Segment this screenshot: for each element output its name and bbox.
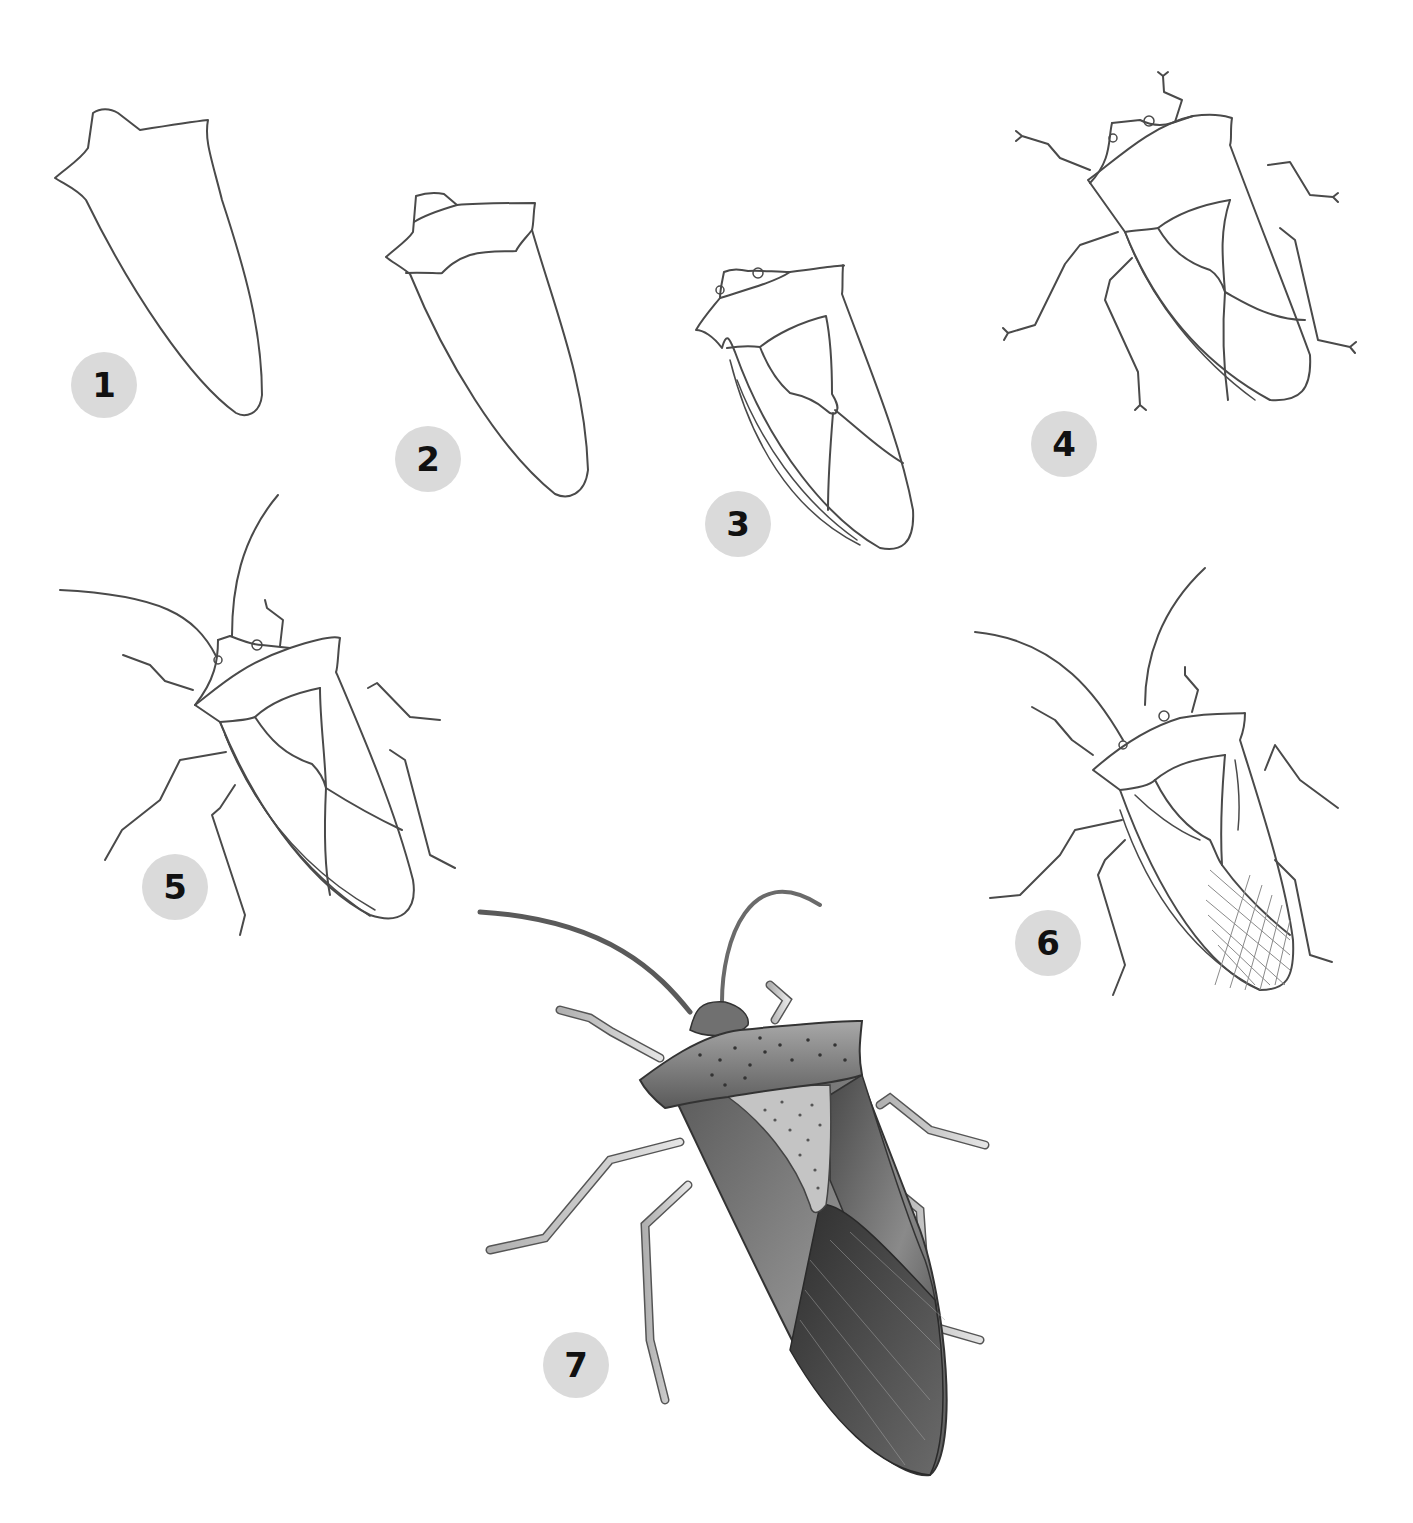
wing-hatch	[1206, 870, 1290, 990]
step-number: 1	[92, 365, 116, 405]
step-number: 5	[163, 867, 187, 907]
step-4-drawing	[1003, 72, 1356, 410]
step-number: 4	[1052, 424, 1076, 464]
step-number: 3	[726, 504, 750, 544]
step-badge-1: 1	[71, 352, 137, 418]
step-badge-5: 5	[142, 854, 208, 920]
step-badge-7: 7	[543, 1332, 609, 1398]
step-number: 7	[564, 1345, 588, 1385]
step-number: 6	[1036, 923, 1060, 963]
step-number: 2	[416, 439, 440, 479]
step-badge-4: 4	[1031, 411, 1097, 477]
step-5-drawing	[60, 495, 455, 935]
step-badge-6: 6	[1015, 910, 1081, 976]
step-badge-3: 3	[705, 491, 771, 557]
step-badge-2: 2	[395, 426, 461, 492]
drawing-canvas	[0, 0, 1413, 1523]
